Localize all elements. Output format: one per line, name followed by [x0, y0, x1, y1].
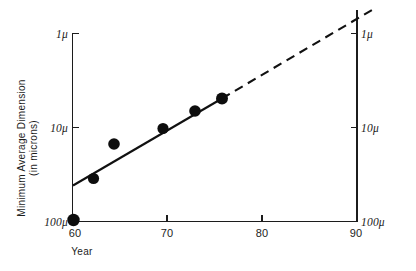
- x-axis-title: Year: [71, 246, 93, 257]
- x-axis-label-70: 70: [161, 227, 174, 239]
- right-axis-label-10u: 10μ: [361, 122, 379, 135]
- scatter-plot: 1μ 10μ 100μ 1μ 10μ 100μ 60 70 80 90 Year…: [0, 0, 416, 271]
- chart-container: 1μ 10μ 100μ 1μ 10μ 100μ 60 70 80 90 Year…: [0, 0, 416, 271]
- trend-line-dashed: [222, 10, 372, 99]
- x-axis-label-60: 60: [69, 227, 82, 239]
- y-axis-title-line2: (in microns): [28, 120, 39, 176]
- right-axis-label-100u: 100μ: [361, 216, 385, 229]
- data-point: [157, 123, 168, 134]
- data-point: [216, 93, 228, 105]
- left-axis-label-1u: 1μ: [56, 28, 68, 41]
- data-point: [189, 105, 201, 117]
- data-point: [67, 214, 79, 226]
- y-axis-title-line1: Minimum Average Dimension: [16, 79, 27, 216]
- x-axis-label-80: 80: [256, 227, 269, 239]
- left-axis-label-10u: 10μ: [50, 122, 68, 135]
- data-point: [88, 173, 99, 184]
- data-point: [108, 138, 120, 150]
- right-axis-label-1u: 1μ: [361, 28, 373, 41]
- x-axis-label-90: 90: [350, 227, 363, 239]
- left-axis-label-100u: 100μ: [44, 216, 68, 229]
